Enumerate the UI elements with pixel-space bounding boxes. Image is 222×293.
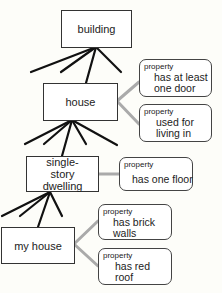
property-has-one-floor: property has one floor [119, 157, 193, 191]
property-has-red-roof: property has red roof [98, 248, 172, 285]
property-tag: property [124, 160, 153, 169]
property-has-brick-walls: property has brick walls [98, 204, 172, 240]
property-tag: property [144, 62, 173, 71]
isa-lines-house [25, 120, 117, 156]
property-tag: property [103, 251, 132, 260]
node-building: building [61, 10, 132, 48]
property-value: has one floor [132, 174, 193, 185]
property-used-for-living-in: property used for living in [139, 104, 212, 142]
property-value: has at least one door [154, 72, 210, 94]
property-has-at-least-one-door: property has at least one door [139, 59, 212, 97]
isa-lines-single-story [2, 192, 62, 227]
property-tag: property [103, 207, 132, 216]
property-value: has brick walls [113, 217, 159, 239]
node-label: house [66, 96, 96, 108]
node-single-story-dwelling: single-story dwelling [26, 156, 99, 192]
property-tag: property [144, 107, 173, 116]
node-my-house: my house [1, 227, 75, 264]
isa-lines-building [31, 47, 121, 83]
node-label: my house [14, 240, 62, 252]
node-label: building [78, 23, 116, 35]
property-value: used for living in [156, 117, 200, 139]
node-label: single-story dwelling [35, 156, 90, 192]
property-value: has red roof [115, 261, 155, 283]
node-house: house [43, 83, 118, 121]
